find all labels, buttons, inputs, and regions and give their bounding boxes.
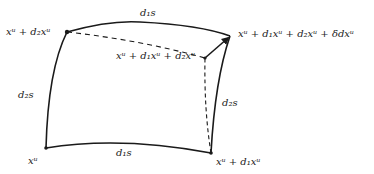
label-bottom-left-corner: xᵘ	[28, 156, 38, 166]
label-top-edge: d₁s	[140, 8, 156, 18]
label-right-edge: d₂s	[222, 98, 238, 108]
top-edge-d1s	[67, 22, 230, 36]
right-edge-d2s	[211, 36, 230, 153]
label-top-right-corner: xᵘ + d₁xᵘ + d₂xᵘ + δdxᵘ	[238, 29, 354, 39]
label-left-edge: d₂s	[18, 90, 34, 100]
left-edge-d2s	[46, 32, 67, 148]
parallelogram-diagram	[0, 0, 374, 174]
label-bottom-right-corner: xᵘ + d₁xᵘ	[216, 157, 260, 167]
corner-dot-bottom-left	[44, 146, 48, 150]
label-inner-point: xᵘ + d₁xᵘ + d₂xᵘ	[116, 51, 195, 61]
label-bottom-edge: d₁s	[116, 148, 132, 158]
dashed-right-edge	[205, 58, 211, 153]
corner-dot-bottom-right	[209, 151, 213, 155]
corner-dot-top-left	[65, 30, 69, 34]
corner-dot-inner	[203, 56, 206, 59]
label-top-left-corner: xᵘ + d₂xᵘ	[6, 27, 50, 37]
